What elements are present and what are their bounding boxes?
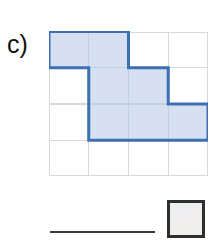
- shaded-cell: [129, 104, 169, 140]
- legend-rule: [50, 231, 155, 233]
- legend-swatch: [167, 200, 205, 238]
- grid-shape-figure: [49, 31, 208, 177]
- legend-swatch-fill: [170, 203, 202, 235]
- shaded-cell: [129, 68, 169, 104]
- shaded-cell: [168, 104, 208, 140]
- shaded-cell: [49, 32, 89, 68]
- shaded-cell: [89, 68, 129, 104]
- shaded-cell: [89, 32, 129, 68]
- shaded-cell: [89, 104, 129, 140]
- figure-container: c): [0, 0, 222, 250]
- part-label: c): [7, 30, 28, 58]
